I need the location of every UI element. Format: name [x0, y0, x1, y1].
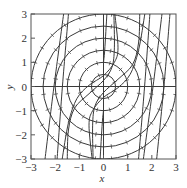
y-tick-label: 0 — [22, 81, 28, 93]
y-axis-title: y — [3, 84, 15, 90]
x-tick-label: −2 — [49, 161, 61, 173]
y-tick-label: 2 — [22, 32, 28, 44]
y-tick-label: 3 — [22, 8, 28, 20]
x-tick-label: 2 — [149, 161, 155, 173]
x-tick-label: 1 — [125, 161, 131, 173]
y-tick-label: 1 — [22, 56, 28, 68]
y-tick-label: −3 — [15, 153, 27, 165]
y-tick-label: −2 — [15, 129, 27, 141]
x-axis-title: x — [99, 172, 105, 184]
x-tick-label: −1 — [73, 161, 85, 173]
plot-area — [29, 12, 177, 160]
y-tick-label: −1 — [15, 105, 27, 117]
phase-portrait-chart: −3−2−10123 −3−2−10123 x y — [0, 0, 187, 188]
x-tick-label: 3 — [173, 161, 179, 173]
